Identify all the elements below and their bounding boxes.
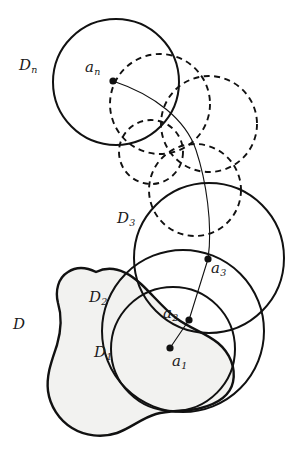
math-figure-canvas <box>0 0 298 459</box>
label-point-a2: a2 <box>163 306 178 321</box>
label-disk-dn: Dn <box>19 58 37 73</box>
dashed-disk-2 <box>161 76 257 172</box>
label-point-a3: a3 <box>211 261 226 276</box>
region-d-outline <box>48 268 234 436</box>
dashed-disk-4 <box>149 144 241 236</box>
point-an-marker <box>109 77 116 84</box>
label-disk-d2: D2 <box>89 290 107 305</box>
label-region-d: D <box>13 317 25 332</box>
point-a1-marker <box>166 344 173 351</box>
point-a2-marker <box>185 316 192 323</box>
dashed-disk-group <box>110 54 257 236</box>
label-disk-d1: D1 <box>94 345 112 360</box>
label-point-a1: a1 <box>172 354 187 369</box>
label-disk-d3: D3 <box>117 211 135 226</box>
label-point-an: an <box>85 60 100 75</box>
